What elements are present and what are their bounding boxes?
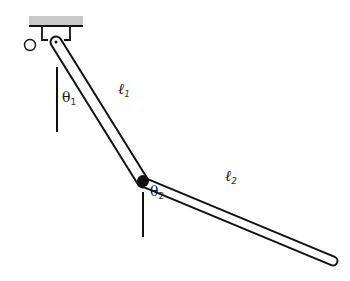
l2-label: ℓ2 [225, 167, 237, 186]
link-1-rod [56, 42, 143, 182]
l1-label: ℓ1 [118, 80, 130, 99]
elbow-joint [137, 175, 149, 187]
link-2-rod [143, 182, 333, 261]
theta1-label: θ1 [62, 89, 76, 107]
ceiling-support [29, 16, 83, 25]
double-pendulum-diagram: θ1 ℓ1 θ2 ℓ2 [0, 0, 350, 281]
origin-marker [25, 40, 36, 51]
pivot-point [55, 41, 58, 44]
